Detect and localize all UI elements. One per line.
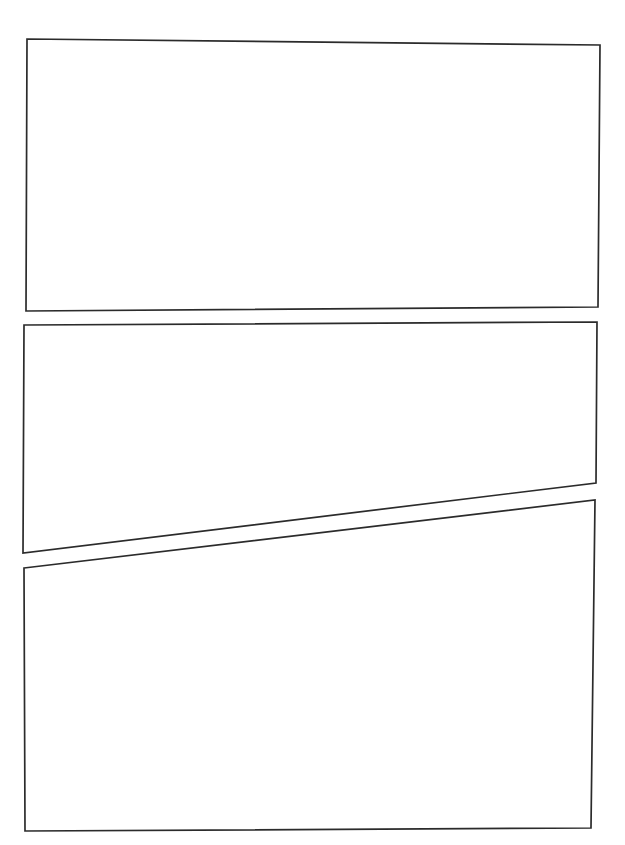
comic-page xyxy=(0,0,625,845)
comic-page-canvas xyxy=(0,0,625,845)
panel-1[interactable] xyxy=(26,39,600,311)
